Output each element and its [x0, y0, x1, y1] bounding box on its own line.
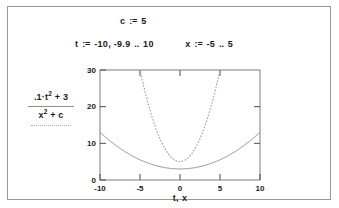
x-tick-label-neg10: -10 — [94, 184, 106, 193]
range-x-assignment-operator: := — [193, 39, 203, 49]
range-t-dots: .. — [133, 39, 140, 49]
worksheet-frame: c := 5 t := -10, -9.9 .. 10 x := -5 .. 5… — [7, 6, 331, 200]
x-tick-label-10: 10 — [256, 184, 265, 193]
range-x-dots: .. — [218, 39, 225, 49]
plot-frame — [100, 70, 260, 180]
plot-canvas[interactable]: 0 10 20 30 -10 -5 0 5 10 t, x — [72, 62, 268, 202]
x-tick-label-neg5: -5 — [136, 184, 144, 193]
y-tick-label-30: 30 — [87, 66, 96, 75]
range-t-start: -10 — [94, 39, 108, 49]
assignment-operator: := — [128, 16, 138, 26]
range-x-lhs: x — [185, 39, 190, 49]
math-region-range-definitions[interactable]: t := -10, -9.9 .. 10 x := -5 .. 5 — [75, 39, 233, 49]
range-t-end: 10 — [143, 39, 154, 49]
range-t-assignment-operator: := — [81, 39, 91, 49]
y-trace-1-style-swatch — [28, 106, 74, 107]
range-x-end: 5 — [228, 39, 233, 49]
y-trace-2-style-swatch — [31, 125, 71, 126]
constant-c-lhs: c — [120, 16, 125, 26]
constant-c-rhs: 5 — [141, 16, 146, 26]
y-trace-1-tail: + 3 — [52, 92, 68, 102]
math-region-constant-c[interactable]: c := 5 — [120, 16, 147, 26]
x-tick-label-5: 5 — [218, 184, 223, 193]
mathcad-worksheet-screen: c := 5 t := -10, -9.9 .. 10 x := -5 .. 5… — [0, 0, 339, 208]
range-t-second: -9.9 — [114, 39, 131, 49]
range-x-start: -5 — [207, 39, 216, 49]
range-t-lhs: t — [75, 39, 78, 49]
y-trace-1-expression: .1·t — [34, 92, 48, 102]
xy-plot-region[interactable]: .1·t2 + 3 x2 + c — [20, 62, 268, 202]
x-axis-title: t, x — [173, 193, 188, 202]
y-tick-label-20: 20 — [87, 102, 96, 111]
range-t-comma: , — [108, 39, 111, 49]
x-tick-label-0: 0 — [178, 184, 183, 193]
y-trace-2-tail: + c — [47, 110, 63, 120]
y-tick-label-10: 10 — [87, 139, 96, 148]
